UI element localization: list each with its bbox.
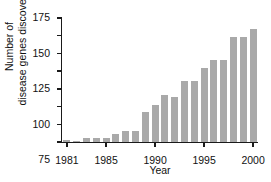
- y-axis-tick: 125: [57, 53, 62, 54]
- y-axis-title-line-1: Number of: [3, 0, 16, 106]
- x-axis-tick: 1981: [66, 142, 67, 147]
- y-axis-tick-label: 75: [38, 153, 50, 165]
- bar: [191, 81, 198, 142]
- y-axis-tick: 175: [57, 17, 62, 18]
- bar: [122, 131, 129, 142]
- x-axis-tick: 1995: [203, 142, 204, 147]
- bar: [93, 138, 100, 142]
- bar: [112, 134, 119, 142]
- bar: [63, 140, 70, 142]
- bar: [230, 37, 237, 142]
- y-axis-title-line-2: disease genes discovered: [15, 0, 28, 106]
- bar: [132, 131, 139, 142]
- y-axis-tick: 150: [57, 35, 62, 36]
- bar: [73, 141, 80, 142]
- y-axis-tick: 50: [57, 106, 62, 107]
- bar: [152, 105, 159, 142]
- bar: [181, 81, 188, 142]
- x-axis-tick: 1985: [105, 142, 106, 147]
- y-axis-tick-label: 150: [32, 47, 50, 59]
- bar: [83, 138, 90, 142]
- bar-chart: Number of disease genes discovered 02550…: [0, 0, 271, 182]
- bar: [171, 97, 178, 142]
- y-axis-tick-label: 100: [32, 118, 50, 130]
- bar: [103, 138, 110, 142]
- y-axis-tick: 0: [57, 141, 62, 142]
- y-axis-tick: 75: [57, 88, 62, 89]
- y-axis-tick: 25: [57, 124, 62, 125]
- x-axis-tick: 2000: [252, 142, 253, 147]
- bar: [201, 68, 208, 142]
- bar: [250, 29, 257, 142]
- y-axis-tick-label: 125: [32, 82, 50, 94]
- y-axis-tick-label: 175: [32, 11, 50, 23]
- bar: [161, 95, 168, 142]
- x-axis-tick: 1990: [154, 142, 155, 147]
- bar: [240, 37, 247, 142]
- bar: [210, 60, 217, 142]
- bar: [142, 112, 149, 142]
- bar: [220, 60, 227, 142]
- x-axis-title: Year: [62, 164, 258, 176]
- y-axis-tick: 100: [57, 70, 62, 71]
- plot-area: 025507510012515017519811985199019952000: [62, 18, 258, 142]
- y-axis-title: Number of disease genes discovered: [3, 0, 28, 106]
